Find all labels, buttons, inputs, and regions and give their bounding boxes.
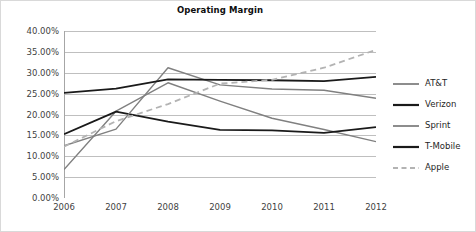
y-tick-label: 5.00% bbox=[1, 172, 59, 182]
x-tick-label: 2009 bbox=[209, 202, 231, 212]
legend-swatch-icon bbox=[393, 142, 419, 152]
chart-title: Operating Margin bbox=[64, 5, 376, 15]
legend-item-sprint[interactable]: Sprint bbox=[393, 115, 475, 136]
chart-legend: AT&TVerizonSprintT-MobileApple bbox=[393, 73, 475, 178]
plot-area bbox=[64, 31, 376, 198]
legend-label: Verizon bbox=[425, 100, 456, 109]
operating-margin-chart: Operating Margin 0.00%5.00%10.00%15.00%2… bbox=[0, 0, 476, 232]
y-tick-label: 25.00% bbox=[1, 89, 59, 99]
legend-item-apple[interactable]: Apple bbox=[393, 157, 475, 178]
y-tick-label: 15.00% bbox=[1, 130, 59, 140]
legend-swatch-icon bbox=[393, 100, 419, 110]
x-tick-label: 2008 bbox=[157, 202, 179, 212]
legend-label: Sprint bbox=[425, 121, 450, 130]
x-axis: 2006200720082009201020112012 bbox=[64, 200, 376, 218]
x-tick-label: 2012 bbox=[365, 202, 387, 212]
y-tick-label: 0.00% bbox=[1, 193, 59, 203]
x-tick-label: 2011 bbox=[313, 202, 335, 212]
legend-label: AT&T bbox=[425, 79, 447, 88]
y-tick-label: 10.00% bbox=[1, 151, 59, 161]
legend-item-verizon[interactable]: Verizon bbox=[393, 94, 475, 115]
legend-swatch-icon bbox=[393, 121, 419, 131]
y-tick-label: 40.00% bbox=[1, 26, 59, 36]
y-tick-label: 30.00% bbox=[1, 68, 59, 78]
x-tick-label: 2006 bbox=[53, 202, 75, 212]
legend-item-at-t[interactable]: AT&T bbox=[393, 73, 475, 94]
y-tick-label: 20.00% bbox=[1, 110, 59, 120]
x-tick-label: 2010 bbox=[261, 202, 283, 212]
y-tick-label: 35.00% bbox=[1, 47, 59, 57]
y-axis: 0.00%5.00%10.00%15.00%20.00%25.00%30.00%… bbox=[1, 31, 59, 198]
plot-svg bbox=[64, 31, 376, 198]
legend-item-t-mobile[interactable]: T-Mobile bbox=[393, 136, 475, 157]
legend-label: T-Mobile bbox=[425, 142, 460, 151]
x-tick-label: 2007 bbox=[105, 202, 127, 212]
legend-swatch-icon bbox=[393, 163, 419, 173]
legend-swatch-icon bbox=[393, 79, 419, 89]
legend-label: Apple bbox=[425, 163, 449, 172]
